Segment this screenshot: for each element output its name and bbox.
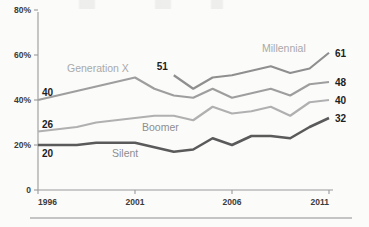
end-value-label-silent: 32 [335,113,347,124]
y-tick-label: 80% [14,5,31,15]
end-value-label-boomer: 40 [335,95,347,106]
x-tick-label: 2001 [126,197,145,207]
y-axis: 020%40%60%80% [14,5,38,195]
end-value-label-millennial: 61 [335,48,347,59]
x-tick-label: 1996 [38,197,57,207]
y-tick-label: 60% [14,50,31,60]
start-value-label-generation-x: 40 [42,87,54,98]
series-line-silent [38,118,329,152]
x-tick-label: 2006 [223,197,242,207]
start-value-label-silent: 20 [42,148,54,159]
series-name-label-generation-x: Generation X [67,62,129,74]
x-axis: 1996200120062011 [38,190,333,207]
series-line-millennial [174,53,329,89]
y-tick-label: 20% [14,140,31,150]
line-chart: 020%40%60%80% 1996200120062011 Millennia… [0,0,369,227]
y-tick-label: 40% [14,95,31,105]
series-name-label-silent: Silent [112,147,138,159]
start-value-label-boomer: 26 [42,119,54,130]
series-name-label-boomer: Boomer [142,121,179,133]
chart-container: 020%40%60%80% 1996200120062011 Millennia… [0,0,369,227]
series-line-boomer [38,100,329,132]
y-tick-label: 0 [26,185,31,195]
x-tick-label: 2011 [311,197,330,207]
start-value-label-millennial: 51 [157,61,169,72]
end-value-label-generation-x: 48 [335,77,347,88]
series-name-label-millennial: Millennial [262,42,306,54]
